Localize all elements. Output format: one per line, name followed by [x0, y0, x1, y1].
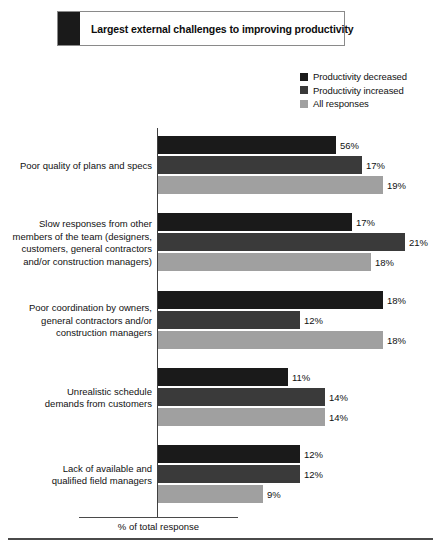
bar[interactable]	[158, 136, 336, 154]
bar[interactable]	[158, 368, 288, 386]
bar-value-label: 12%	[300, 311, 323, 329]
category-label-line: Unrealistic schedule	[0, 386, 152, 399]
category-label-line: Lack of available and	[0, 463, 152, 476]
category-axis-line	[79, 517, 238, 518]
category-label-line: qualified field managers	[0, 475, 152, 488]
category-label-line: members of the team (designers,	[0, 231, 152, 244]
chart-title-banner: Largest external challenges to improving…	[57, 11, 345, 46]
category-label: Unrealistic scheduledemands from custome…	[0, 386, 152, 411]
legend-label: All responses	[313, 98, 369, 109]
legend-label: Productivity decreased	[313, 71, 407, 82]
category-label: Lack of available andqualified field man…	[0, 463, 152, 488]
bar-value-label: 18%	[383, 291, 406, 309]
bar[interactable]	[158, 233, 405, 251]
axis-caption: % of total response	[79, 521, 238, 532]
bar-value-label: 11%	[288, 368, 310, 386]
bar-value-label: 18%	[383, 331, 406, 349]
bar[interactable]	[158, 253, 371, 271]
legend-item-productivity-decreased: Productivity decreased	[300, 70, 440, 84]
legend-swatch-icon	[300, 73, 308, 81]
bar-value-label: 18%	[371, 253, 394, 271]
category-label: Poor coordination by owners,general cont…	[0, 302, 152, 340]
chart-canvas: Largest external challenges to improving…	[0, 0, 441, 546]
page-title: Largest external challenges to improving…	[91, 12, 354, 45]
legend-item-all-responses: All responses	[300, 97, 440, 111]
bar-value-label: 19%	[383, 176, 406, 194]
category-label-line: Poor coordination by owners,	[0, 302, 152, 315]
legend-label: Productivity increased	[313, 85, 404, 96]
chart-legend: Productivity decreased Productivity incr…	[300, 70, 440, 111]
bar[interactable]	[158, 213, 352, 231]
bar-value-label: 14%	[325, 408, 348, 426]
bar[interactable]	[158, 331, 383, 349]
legend-swatch-icon	[300, 100, 308, 108]
legend-swatch-icon	[300, 86, 308, 94]
bar[interactable]	[158, 176, 383, 194]
category-label-line: and/or construction managers)	[0, 256, 152, 269]
bar[interactable]	[158, 465, 300, 483]
footer-rule	[8, 538, 433, 540]
bar[interactable]	[158, 291, 383, 309]
category-label-line: Slow responses from other	[0, 218, 152, 231]
category-label-line: construction managers	[0, 327, 152, 340]
category-label-line: Poor quality of plans and specs	[0, 160, 152, 173]
category-label-line: general contractors and/or	[0, 315, 152, 328]
bar[interactable]	[158, 445, 300, 463]
bar-value-label: 17%	[352, 213, 375, 231]
bar-value-label: 9%	[263, 485, 281, 503]
legend-item-productivity-increased: Productivity increased	[300, 84, 440, 98]
bar[interactable]	[158, 408, 325, 426]
category-label-line: demands from customers	[0, 398, 152, 411]
bar-value-label: 56%	[336, 136, 359, 154]
bar-value-label: 14%	[325, 388, 348, 406]
bar-value-label: 17%	[362, 156, 385, 174]
bar-value-label: 21%	[405, 233, 428, 251]
category-label: Poor quality of plans and specs	[0, 160, 152, 173]
bar-value-label: 12%	[300, 465, 323, 483]
bar[interactable]	[158, 485, 263, 503]
bar[interactable]	[158, 388, 325, 406]
category-label: Slow responses from othermembers of the …	[0, 218, 152, 268]
category-label-line: customers, general contractors	[0, 243, 152, 256]
bar[interactable]	[158, 156, 362, 174]
bar[interactable]	[158, 311, 300, 329]
bar-value-label: 12%	[300, 445, 323, 463]
title-swatch-icon	[58, 12, 80, 45]
